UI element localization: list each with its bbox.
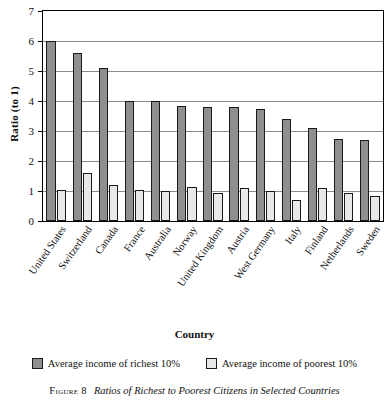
x-tick-label-text: Finland <box>302 224 329 257</box>
bar-group <box>305 11 331 221</box>
legend-item: Average income of poorest 10% <box>206 358 357 369</box>
x-tick-label-text: Austria <box>224 224 251 256</box>
bar-richest <box>308 128 317 221</box>
x-tick-label-text: Sweden <box>354 224 382 258</box>
figure-number: Figure 8 <box>49 385 87 396</box>
x-axis-title: Country <box>0 328 389 340</box>
bar-group <box>148 11 174 221</box>
y-tick-label: 6 <box>8 36 34 47</box>
legend-swatch-rich <box>32 358 43 369</box>
bar-group <box>43 11 69 221</box>
bar-group <box>331 11 357 221</box>
chart-legend: Average income of richest 10%Average inc… <box>0 358 389 369</box>
y-tick-label: 3 <box>8 126 34 137</box>
bar-group <box>200 11 226 221</box>
bar-richest <box>46 41 55 221</box>
x-tick-label-text: France <box>121 224 146 254</box>
y-tick-label: 5 <box>8 66 34 77</box>
y-tick-label: 7 <box>8 6 34 17</box>
legend-label: Average income of richest 10% <box>48 358 180 369</box>
x-axis-tick-labels: United StatesSwitzerlandCanadaFranceAust… <box>0 224 389 332</box>
x-tick-label-text: Italy <box>283 224 303 246</box>
legend-item: Average income of richest 10% <box>32 358 180 369</box>
figure-caption: Figure 8Ratios of Richest to Poorest Cit… <box>0 385 389 396</box>
figure-container: Ratio (to 1) 01234567 United StatesSwitz… <box>0 0 389 405</box>
bar-group <box>174 11 200 221</box>
bar-group <box>121 11 147 221</box>
figure-caption-text: Ratios of Richest to Poorest Citizens in… <box>94 385 340 396</box>
legend-label: Average income of poorest 10% <box>222 358 357 369</box>
y-tick-label: 2 <box>8 156 34 167</box>
y-tick-label: 1 <box>8 186 34 197</box>
x-tick-label-text: Canada <box>93 224 120 256</box>
legend-swatch-poor <box>206 358 217 369</box>
y-tick-label: 4 <box>8 96 34 107</box>
bar-group <box>252 11 278 221</box>
